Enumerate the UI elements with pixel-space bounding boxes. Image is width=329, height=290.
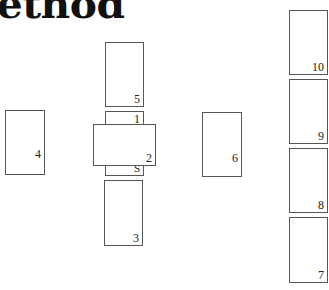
card-position-9: 9 [289,79,328,144]
card-number: 6 [232,152,238,164]
card-position-10: 10 [289,10,328,75]
card-position-5: 5 [105,42,144,107]
card-position-8: 8 [289,148,328,213]
card-number: 10 [312,61,324,73]
card-number: 3 [133,232,139,244]
card-number: 5 [134,93,140,105]
card-number: 8 [318,199,324,211]
card-position-4: 4 [5,110,45,175]
card-position-6: 6 [202,112,242,177]
section-heading: ethod [0,0,124,26]
card-number: 2 [146,152,152,164]
card-number: 4 [35,148,41,160]
card-number: 7 [318,269,324,281]
card-position-2: 2 [93,124,156,166]
card-position-7: 7 [289,217,328,283]
card-position-3: 3 [104,180,143,246]
card-number: 9 [318,130,324,142]
